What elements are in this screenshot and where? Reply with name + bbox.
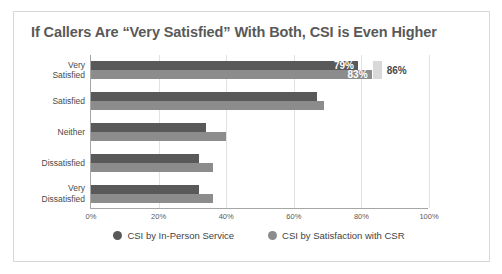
chart-title: If Callers Are “Very Satisfied” With Bot… (31, 24, 471, 40)
bar-in-person-service: 79% (91, 61, 358, 70)
gridline (429, 55, 430, 208)
x-tick-label: 0% (86, 212, 97, 221)
x-tick-label: 100% (419, 212, 438, 221)
category-label: Satisfied (23, 96, 85, 107)
legend-item-in-person-service[interactable]: CSI by In-Person Service (113, 230, 234, 241)
chart-card: If Callers Are “Very Satisfied” With Bot… (13, 11, 490, 262)
legend-item-satisfaction-csr[interactable]: CSI by Satisfaction with CSR (268, 230, 405, 241)
bar-value-label: 83% (348, 69, 368, 80)
x-tick-label: 80% (354, 212, 369, 221)
chart-legend: CSI by In-Person ServiceCSI by Satisfact… (90, 230, 428, 241)
bar-satisfaction-csr (91, 163, 213, 172)
legend-dot-icon (268, 231, 277, 240)
category-label: VerySatisfied (23, 60, 85, 81)
bar-group: Satisfied (91, 92, 429, 110)
bar-group: VeryDissatisfied (91, 185, 429, 203)
combined-marker-label: 86% (387, 65, 407, 76)
legend-dot-icon (113, 231, 122, 240)
bar-in-person-service (91, 92, 317, 101)
bar-satisfaction-csr (91, 101, 324, 110)
x-tick-label: 60% (286, 212, 301, 221)
bar-satisfaction-csr: 83% (91, 70, 372, 79)
legend-label: CSI by Satisfaction with CSR (282, 230, 405, 241)
category-label: VeryDissatisfied (23, 183, 85, 204)
category-label: Dissatisfied (23, 158, 85, 169)
bar-group: Dissatisfied (91, 154, 429, 172)
plot-area: VerySatisfied79%83%SatisfiedNeitherDissa… (90, 55, 428, 209)
bar-in-person-service (91, 185, 199, 194)
bar-satisfaction-csr (91, 194, 213, 203)
x-tick-label: 40% (219, 212, 234, 221)
x-tick-label: 20% (151, 212, 166, 221)
category-label: Neither (23, 127, 85, 138)
bar-group: Neither (91, 123, 429, 141)
bar-in-person-service (91, 123, 206, 132)
bar-in-person-service (91, 154, 199, 163)
bar-satisfaction-csr (91, 132, 226, 141)
legend-label: CSI by In-Person Service (127, 230, 234, 241)
combined-marker (373, 61, 382, 79)
